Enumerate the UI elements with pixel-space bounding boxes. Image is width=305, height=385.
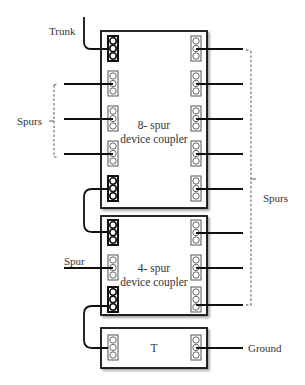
spurs-bracket-left: [54, 84, 58, 157]
spurs-bracket-right: [246, 50, 251, 306]
trunk-out-connector: [108, 287, 118, 312]
spur-label: Spur: [64, 255, 85, 267]
coupler-title-line2: device coupler: [120, 276, 188, 289]
spurs-label-right: Spurs: [263, 192, 288, 204]
four-spur-device-coupler: 4- spur device coupler: [101, 216, 207, 315]
spurs-label-left: Spurs: [17, 115, 42, 127]
spur-connector: [191, 287, 201, 312]
coupler-title-line1: 8- spur: [138, 119, 170, 132]
trunk-out-connector: [108, 176, 118, 201]
eight-spur-device-coupler: 8- spur device coupler: [101, 31, 207, 208]
ground-label: Ground: [248, 342, 282, 354]
coupler-title-line2: device coupler: [120, 133, 188, 146]
coupler-title-line1: 4- spur: [138, 262, 170, 275]
trunk-in-connector: [108, 220, 118, 245]
terminator-connector: [108, 335, 118, 360]
terminator-block: T: [101, 328, 207, 368]
trunk-connector: [108, 36, 118, 61]
terminator-title: T: [150, 342, 157, 354]
trunk-label: Trunk: [49, 25, 76, 37]
